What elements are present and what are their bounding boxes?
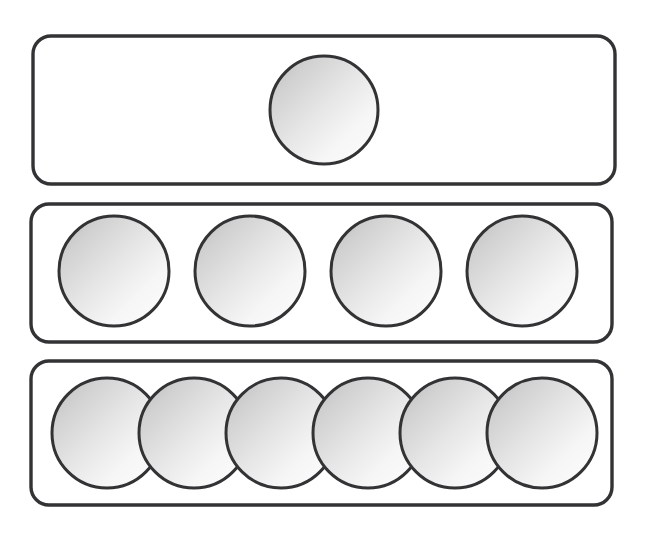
counter-2-3[interactable]	[331, 216, 441, 326]
counter-group-3[interactable]	[31, 361, 612, 505]
counter-2-4[interactable]	[467, 216, 577, 326]
counter-2-1[interactable]	[59, 216, 169, 326]
counter-2-2[interactable]	[195, 216, 305, 326]
groups-layer	[31, 36, 615, 505]
diagram-stage	[0, 0, 646, 538]
counter-group-1[interactable]	[33, 36, 615, 184]
counter-group-2[interactable]	[31, 204, 612, 342]
counter-groups-diagram	[0, 0, 646, 538]
counter-3-6[interactable]	[487, 378, 597, 488]
counter-1-1[interactable]	[270, 56, 378, 164]
